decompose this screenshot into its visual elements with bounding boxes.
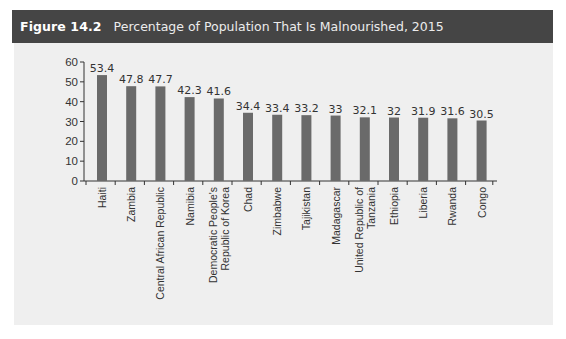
category-label: Haiti (96, 187, 108, 208)
bar (272, 115, 282, 181)
bar (360, 117, 370, 181)
y-tick-label: 0 (72, 175, 78, 187)
bar (97, 75, 107, 181)
category-label: Tajikistan (300, 187, 312, 230)
category-label: United Republic of (353, 187, 365, 273)
bars: 53.447.847.742.341.634.433.433.23332.132… (90, 62, 494, 181)
bar-value-label: 32.1 (353, 104, 378, 117)
category-labels: HaitiZambiaCentral African RepublicNamib… (96, 186, 488, 299)
bar (301, 115, 311, 181)
y-tick-label: 50 (65, 76, 78, 88)
bar-value-label: 41.6 (207, 85, 232, 98)
category-label: Tanzania (365, 187, 377, 229)
bar (477, 121, 487, 181)
bar (243, 113, 253, 181)
x-axis (84, 181, 497, 185)
y-tick-label: 40 (65, 96, 78, 108)
y-tick-label: 20 (65, 135, 78, 147)
bar (418, 118, 428, 181)
category-label: Madagascar (330, 186, 342, 244)
category-label: Zimbabwe (271, 187, 283, 236)
category-label: Democratic People's (207, 187, 219, 283)
bar-value-label: 33.4 (265, 102, 290, 115)
category-label: Namibia (184, 187, 196, 226)
bar (214, 98, 224, 181)
bar-value-label: 32 (387, 105, 401, 118)
category-label: Chad (242, 187, 254, 212)
category-label: Zambia (125, 187, 137, 222)
bar-value-label: 31.6 (440, 105, 465, 118)
y-tick-label: 60 (65, 56, 78, 68)
bar-value-label: 33.2 (294, 102, 319, 115)
bar (447, 118, 457, 181)
bar (185, 97, 195, 181)
category-label: Republic of Korea (219, 187, 231, 271)
category-label: Rwanda (446, 187, 458, 226)
bar-value-label: 42.3 (177, 84, 202, 97)
bar (331, 116, 341, 181)
y-axis: 0102030405060 (65, 56, 84, 187)
bar-value-label: 33 (329, 103, 343, 116)
bar-value-label: 47.7 (148, 73, 173, 86)
y-tick-label: 10 (65, 155, 78, 167)
bar-value-label: 31.9 (411, 105, 436, 118)
category-label: Ethiopia (388, 187, 400, 225)
bar (155, 86, 165, 181)
bar (126, 86, 136, 181)
bar-value-label: 47.8 (119, 73, 144, 86)
bar-value-label: 53.4 (90, 62, 115, 75)
bar-chart: 0102030405060 53.447.847.742.341.634.433… (0, 0, 566, 339)
category-label: Congo (476, 187, 488, 218)
category-label: Central African Republic (154, 187, 166, 300)
y-tick-label: 30 (65, 116, 78, 128)
bar-value-label: 34.4 (236, 100, 261, 113)
category-label: Liberia (417, 187, 429, 219)
bar-value-label: 30.5 (469, 108, 494, 121)
bar (389, 118, 399, 181)
